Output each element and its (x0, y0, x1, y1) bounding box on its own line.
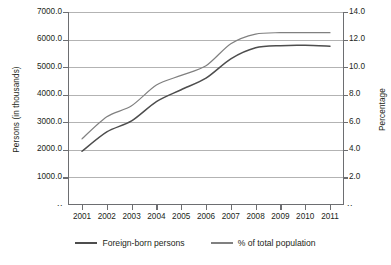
x-tick (181, 205, 182, 210)
y-axis-right-label: 12.0 (349, 34, 391, 43)
x-tick (156, 205, 157, 210)
y-axis-right-label: 4.0 (349, 144, 391, 153)
y-axis-right-label: 14.0 (349, 7, 391, 16)
x-tick (305, 205, 306, 210)
axis-break-left: .. (57, 198, 63, 208)
x-tick (280, 205, 281, 210)
y-axis-left-label: 5000.0 (2, 62, 62, 71)
y-axis-right-label: 2.0 (349, 172, 391, 181)
x-tick (206, 205, 207, 210)
x-tick (82, 205, 83, 210)
x-tick (231, 205, 232, 210)
legend-label: % of total population (238, 238, 316, 248)
legend-label: Foreign-born persons (102, 238, 184, 248)
chart-legend: Foreign-born persons% of total populatio… (0, 238, 391, 248)
plot-area: 1000.02000.03000.04000.05000.06000.07000… (68, 12, 344, 205)
x-tick (132, 205, 133, 210)
x-tick (256, 205, 257, 210)
legend-item[interactable]: Foreign-born persons (75, 238, 184, 248)
y-axis-right-label: 6.0 (349, 117, 391, 126)
x-axis-label: 2011 (310, 212, 350, 221)
series-line (82, 45, 330, 151)
legend-swatch-icon (75, 242, 97, 244)
y-axis-right-label: 10.0 (349, 62, 391, 71)
axis-break-right: .. (347, 198, 353, 208)
y-axis-left-label: 3000.0 (2, 117, 62, 126)
y-axis-left-label: 7000.0 (2, 7, 62, 16)
x-tick (107, 205, 108, 210)
legend-item[interactable]: % of total population (211, 238, 316, 248)
y-axis-left-label: 6000.0 (2, 34, 62, 43)
y-axis-left-label: 1000.0 (2, 172, 62, 181)
y-axis-right-label: 8.0 (349, 89, 391, 98)
y-axis-left-label: 4000.0 (2, 89, 62, 98)
legend-swatch-icon (211, 242, 233, 244)
series-line (82, 33, 330, 139)
series-lines (68, 12, 344, 205)
x-tick (330, 205, 331, 210)
y-axis-left-label: 2000.0 (2, 144, 62, 153)
line-chart: Persons (in thousands) Percentage .. .. … (0, 0, 391, 265)
